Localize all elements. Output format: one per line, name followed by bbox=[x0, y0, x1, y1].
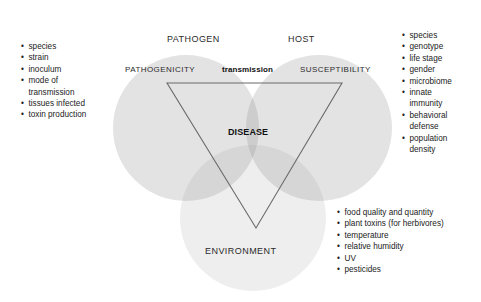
bullet-icon: • bbox=[21, 109, 24, 120]
list-item-label: behavioraldefense bbox=[410, 111, 448, 131]
list-item: •plant toxins (for herbivores) bbox=[337, 218, 444, 229]
bullet-icon: • bbox=[337, 207, 340, 218]
bullet-icon: • bbox=[402, 30, 405, 41]
bullet-icon: • bbox=[402, 64, 405, 75]
bullet-icon: • bbox=[402, 76, 405, 87]
list-item-label: mode oftransmission bbox=[29, 76, 75, 96]
bullet-icon: • bbox=[402, 53, 405, 64]
bullet-icon: • bbox=[337, 253, 340, 264]
bullet-icon: • bbox=[402, 110, 405, 121]
circle-label-environment: ENVIRONMENT bbox=[205, 246, 276, 256]
list-item-label: gender bbox=[410, 65, 436, 74]
disease-triangle-diagram: PATHOGEN HOST PATHOGENICITY transmission… bbox=[0, 0, 481, 302]
circle-environment bbox=[180, 145, 326, 291]
list-item: •gender bbox=[402, 64, 452, 75]
bullet-icon: • bbox=[337, 218, 340, 229]
list-item-label: strain bbox=[29, 53, 49, 62]
list-item: •mode oftransmission bbox=[21, 75, 86, 98]
intersection-label-pathogenicity: PATHOGENICITY bbox=[125, 65, 195, 74]
list-item: •UV bbox=[337, 253, 444, 264]
list-item-label: innateimmunity bbox=[410, 88, 443, 108]
bullet-icon: • bbox=[402, 41, 405, 52]
host-factors-list: •species•genotype•life stage•gender•micr… bbox=[402, 30, 452, 155]
list-item: •innateimmunity bbox=[402, 87, 452, 110]
list-item: •relative humidity bbox=[337, 241, 444, 252]
intersection-label-transmission: transmission bbox=[222, 65, 273, 74]
intersection-label-susceptibility: SUSCEPTIBILITY bbox=[300, 65, 371, 74]
list-item: •microbiome bbox=[402, 76, 452, 87]
list-item-label: life stage bbox=[410, 54, 443, 63]
list-item-label: plant toxins (for herbivores) bbox=[345, 219, 444, 228]
bullet-icon: • bbox=[337, 241, 340, 252]
list-item-label: microbiome bbox=[410, 77, 452, 86]
list-item-label: species bbox=[29, 42, 57, 51]
list-item-label: UV bbox=[345, 254, 356, 263]
circle-label-pathogen: PATHOGEN bbox=[167, 34, 220, 44]
list-item: •inoculum bbox=[21, 64, 86, 75]
bullet-icon: • bbox=[21, 98, 24, 109]
list-item-label: pesticides bbox=[345, 265, 381, 274]
list-item: •toxin production bbox=[21, 109, 86, 120]
list-item: •populationdensity bbox=[402, 133, 452, 156]
list-item-label: toxin production bbox=[29, 110, 87, 119]
bullet-icon: • bbox=[21, 52, 24, 63]
list-item: •tissues infected bbox=[21, 98, 86, 109]
bullet-icon: • bbox=[402, 87, 405, 98]
list-item-label: populationdensity bbox=[410, 134, 448, 154]
center-label-disease: DISEASE bbox=[228, 127, 268, 137]
bullet-icon: • bbox=[402, 133, 405, 144]
list-item: •life stage bbox=[402, 53, 452, 64]
bullet-icon: • bbox=[21, 75, 24, 86]
list-item: •strain bbox=[21, 52, 86, 63]
list-item-label: species bbox=[410, 31, 438, 40]
list-item: •species bbox=[21, 41, 86, 52]
bullet-icon: • bbox=[21, 64, 24, 75]
list-item: •genotype bbox=[402, 41, 452, 52]
bullet-icon: • bbox=[21, 41, 24, 52]
list-item: •food quality and quantity bbox=[337, 207, 444, 218]
list-item-label: inoculum bbox=[29, 65, 62, 74]
circle-label-host: HOST bbox=[288, 34, 315, 44]
list-item: •temperature bbox=[337, 230, 444, 241]
list-item: •behavioraldefense bbox=[402, 110, 452, 133]
list-item: •species bbox=[402, 30, 452, 41]
list-item-label: food quality and quantity bbox=[345, 208, 434, 217]
list-item-label: relative humidity bbox=[345, 242, 404, 251]
bullet-icon: • bbox=[337, 230, 340, 241]
pathogen-factors-list: •species•strain•inoculum•mode oftransmis… bbox=[21, 41, 86, 121]
list-item-label: tissues infected bbox=[29, 99, 85, 108]
list-item: •pesticides bbox=[337, 264, 444, 275]
bullet-icon: • bbox=[337, 264, 340, 275]
environment-factors-list: •food quality and quantity•plant toxins … bbox=[337, 207, 444, 275]
list-item-label: temperature bbox=[345, 231, 389, 240]
list-item-label: genotype bbox=[410, 42, 444, 51]
